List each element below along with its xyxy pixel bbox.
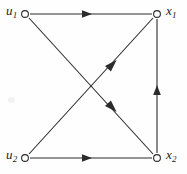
graph-edges [29, 14, 157, 158]
node-label-x1-subscript: 1 [172, 10, 177, 20]
node-label-u1-base: u [6, 3, 13, 18]
graph-canvas [0, 0, 187, 174]
arrowhead-x2-x1 [153, 85, 161, 95]
node-label-x2-subscript: 2 [172, 154, 177, 164]
graph-arrowheads [82, 10, 161, 162]
node-label-x2: x2 [166, 148, 177, 164]
arrowhead-u1-x2 [105, 101, 117, 113]
node-label-u2-subscript: 2 [13, 154, 18, 164]
node-label-x1-base: x [166, 3, 172, 18]
node-label-u2: u2 [6, 148, 17, 164]
signal-flow-graph-figure: u1 x1 u2 x2 [0, 0, 187, 174]
node-x2[interactable] [154, 155, 161, 162]
node-label-x2-base: x [166, 147, 172, 162]
node-label-x1: x1 [166, 4, 177, 20]
node-label-u1-subscript: 1 [13, 10, 18, 20]
node-label-u1: u1 [6, 4, 17, 20]
arrowhead-u1-x1 [82, 10, 92, 18]
arrowhead-u2-x2 [82, 154, 92, 162]
arrowhead-u2-x1 [105, 60, 117, 72]
node-x1[interactable] [154, 11, 161, 18]
node-u1[interactable] [22, 11, 29, 18]
node-label-u2-base: u [6, 147, 13, 162]
node-u2[interactable] [22, 155, 29, 162]
